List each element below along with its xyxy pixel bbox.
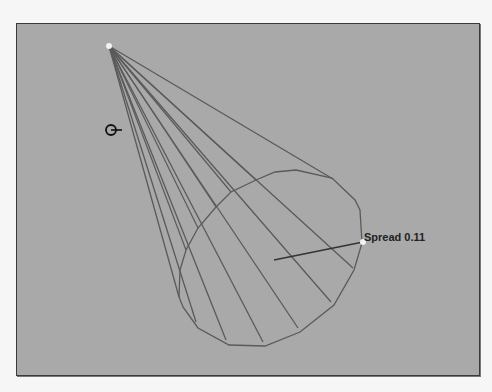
cone-generator-line: [109, 46, 186, 250]
cone-generator-line: [109, 46, 333, 179]
spread-label: Spread 0.11: [364, 231, 425, 243]
cone-generator-line: [109, 46, 256, 180]
apex-handle[interactable]: [106, 43, 112, 49]
3d-viewport[interactable]: Spread 0.11: [16, 23, 480, 376]
cone-base-outline: [179, 170, 362, 346]
cone-generator-line: [109, 46, 226, 340]
cone-generator-line: [109, 46, 196, 322]
cone-generator-line: [109, 46, 179, 297]
cone-wireframe[interactable]: [17, 24, 479, 375]
cone-generator-line: [109, 46, 331, 302]
rotate-cursor-icon: [104, 122, 126, 138]
cone-generator-line: [109, 46, 263, 342]
